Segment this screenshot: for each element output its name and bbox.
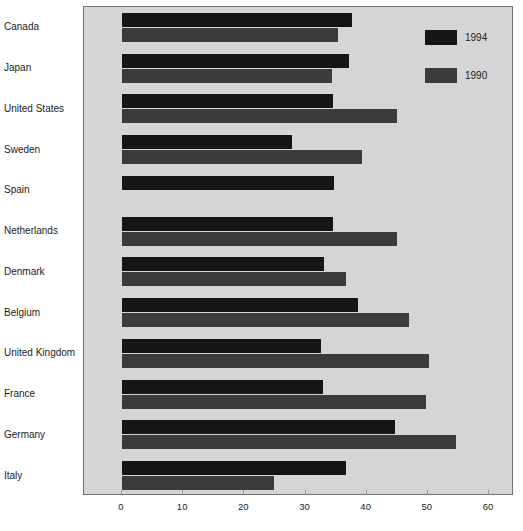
x-tick-mark-40: [366, 490, 367, 495]
bar-canada-1994: [122, 13, 352, 27]
x-tick-mark-50: [427, 490, 428, 495]
bar-japan-1990: [122, 69, 332, 83]
bar-denmark-1994: [122, 257, 324, 271]
bar-united-states-1990: [122, 109, 397, 123]
bar-japan-1994: [122, 54, 349, 68]
bar-sweden-1994: [122, 135, 292, 149]
x-tick-mark-0: [121, 490, 122, 495]
bar-chart: 19941990 CanadaJapanUnited StatesSwedenS…: [0, 0, 523, 531]
category-label-germany: Germany: [4, 428, 45, 439]
x-axis: 0102030405060: [83, 495, 513, 525]
x-tick-mark-20: [243, 490, 244, 495]
bar-italy-1990: [122, 476, 274, 490]
bar-germany-1990: [122, 435, 456, 449]
category-label-united-kingdom: United Kingdom: [4, 347, 75, 358]
x-tick-label-0: 0: [118, 501, 123, 512]
x-tick-label-60: 60: [483, 501, 494, 512]
x-tick-mark-30: [305, 490, 306, 495]
category-label-sweden: Sweden: [4, 143, 40, 154]
category-label-netherlands: Netherlands: [4, 225, 58, 236]
x-tick-mark-10: [182, 490, 183, 495]
bar-netherlands-1990: [122, 232, 397, 246]
bar-belgium-1994: [122, 298, 358, 312]
x-tick-label-20: 20: [238, 501, 249, 512]
legend-entry-1990: 1990: [425, 67, 487, 84]
category-label-france: France: [4, 388, 35, 399]
bar-denmark-1990: [122, 272, 346, 286]
bar-france-1994: [122, 380, 323, 394]
bar-sweden-1990: [122, 150, 362, 164]
legend-entry-1994: 1994: [425, 29, 487, 46]
chart-legend: 19941990: [425, 29, 511, 91]
x-tick-label-50: 50: [422, 501, 433, 512]
category-label-belgium: Belgium: [4, 306, 40, 317]
category-label-united-states: United States: [4, 102, 64, 113]
category-axis-labels: CanadaJapanUnited StatesSwedenSpainNethe…: [2, 6, 81, 495]
legend-swatch-1990: [425, 68, 457, 83]
legend-swatch-1994: [425, 30, 457, 45]
legend-label-1994: 1994: [465, 32, 487, 43]
bar-france-1990: [122, 395, 426, 409]
bar-germany-1994: [122, 420, 395, 434]
legend-label-1990: 1990: [465, 70, 487, 81]
bar-united-kingdom-1994: [122, 339, 321, 353]
category-label-denmark: Denmark: [4, 265, 45, 276]
x-tick-label-30: 30: [299, 501, 310, 512]
x-tick-mark-60: [488, 490, 489, 495]
x-tick-label-10: 10: [177, 501, 188, 512]
bar-italy-1994: [122, 461, 346, 475]
plot-area: 19941990: [83, 6, 513, 495]
bar-belgium-1990: [122, 313, 409, 327]
bar-netherlands-1994: [122, 217, 333, 231]
category-label-canada: Canada: [4, 21, 39, 32]
bar-united-states-1994: [122, 94, 333, 108]
bar-spain-1994: [122, 176, 334, 190]
bar-canada-1990: [122, 28, 338, 42]
category-label-japan: Japan: [4, 62, 31, 73]
x-tick-label-40: 40: [360, 501, 371, 512]
category-label-italy: Italy: [4, 469, 22, 480]
category-label-spain: Spain: [4, 184, 30, 195]
bar-united-kingdom-1990: [122, 354, 429, 368]
